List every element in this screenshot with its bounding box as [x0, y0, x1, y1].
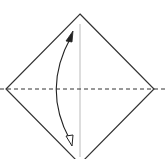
origami-diagram — [0, 0, 166, 159]
arrowhead-filled-icon — [66, 31, 73, 42]
arrowhead-hollow-icon — [66, 135, 73, 146]
